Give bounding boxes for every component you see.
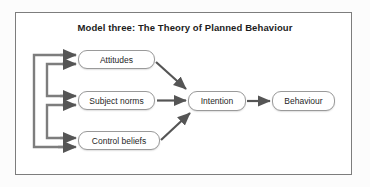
node-control-beliefs-label: Control beliefs: [92, 136, 146, 146]
feedback-bracket-outer: [34, 55, 76, 147]
feedback-bracket-inner-lower: [47, 105, 76, 138]
node-behaviour-label: Behaviour: [284, 96, 322, 106]
node-control-beliefs[interactable]: Control beliefs: [78, 131, 160, 150]
node-attitudes[interactable]: Attitudes: [78, 50, 155, 69]
edge-attitudes-to-intention: [156, 62, 186, 89]
node-attitudes-label: Attitudes: [100, 55, 133, 65]
node-intention[interactable]: Intention: [188, 91, 246, 111]
edge-control-beliefs-to-intention: [161, 113, 190, 140]
feedback-bracket-inner-upper: [47, 64, 76, 96]
node-subject-norms[interactable]: Subject norms: [78, 91, 155, 110]
node-subject-norms-label: Subject norms: [89, 96, 143, 106]
node-behaviour[interactable]: Behaviour: [272, 91, 335, 111]
figure-canvas: Model three: The Theory of Planned Behav…: [0, 0, 370, 187]
node-intention-label: Intention: [201, 96, 234, 106]
